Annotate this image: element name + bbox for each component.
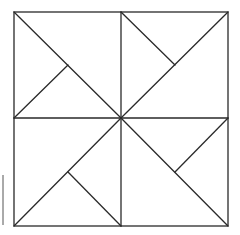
top-left-branch-line bbox=[14, 65, 68, 118]
bottom-left-branch-line bbox=[68, 172, 121, 226]
pinwheel-diagram bbox=[0, 0, 240, 235]
top-right-branch-line bbox=[121, 12, 175, 65]
bottom-right-branch-line bbox=[175, 118, 228, 172]
